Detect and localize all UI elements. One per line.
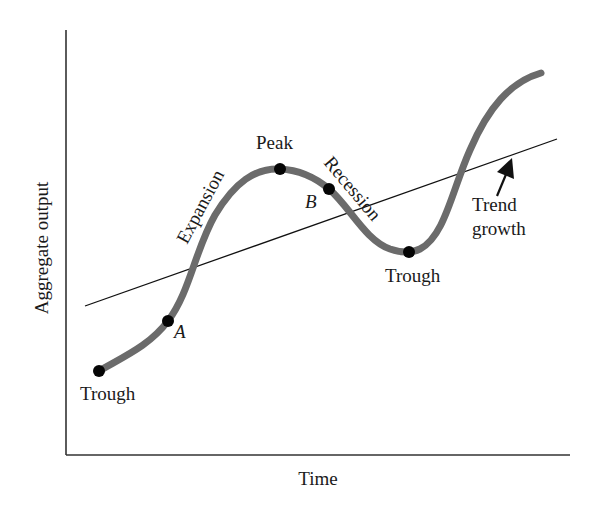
peak-point (274, 163, 286, 175)
point-b (323, 183, 335, 195)
axes (66, 30, 570, 455)
trend-growth-annotation: Trend growth (472, 158, 526, 239)
trough-point-2 (403, 246, 415, 258)
business-cycle-diagram: Time Aggregate output Trough A Peak B Tr… (0, 0, 607, 506)
point-b-label: B (305, 191, 317, 212)
trend-label-line1: Trend (472, 194, 517, 215)
x-axis-label: Time (298, 468, 337, 489)
peak-label: Peak (256, 132, 293, 153)
trough-point-1 (93, 365, 105, 377)
trend-arrow-shaft (497, 172, 507, 196)
point-a-label: A (172, 321, 186, 342)
trough-label-2: Trough (385, 265, 441, 286)
y-axis-label: Aggregate output (31, 181, 52, 314)
trough-label-1: Trough (80, 383, 136, 404)
trend-label-line2: growth (472, 218, 526, 239)
point-a (162, 315, 174, 327)
